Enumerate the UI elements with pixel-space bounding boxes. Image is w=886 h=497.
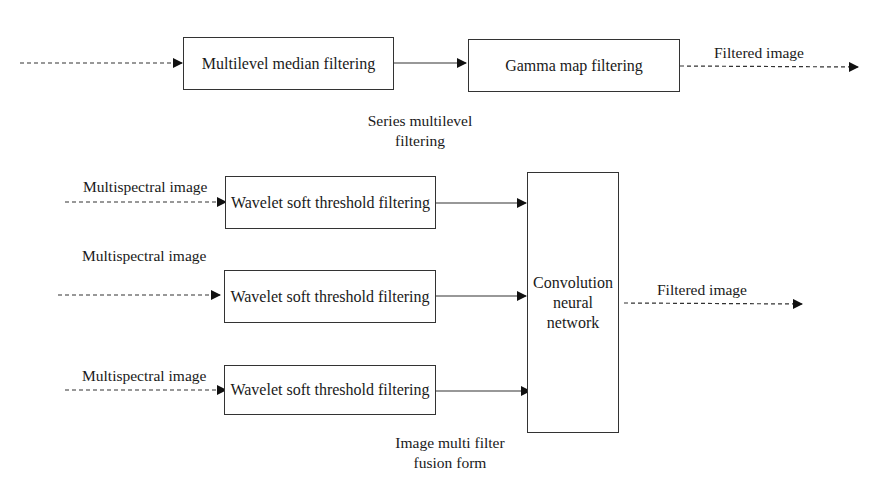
cnn-output-label: Filtered image <box>657 280 747 299</box>
wavelet-filter-box-3: Wavelet soft threshold filtering <box>224 365 436 415</box>
box-label: Wavelet soft threshold filtering <box>231 193 430 213</box>
top-output-label: Filtered image <box>714 43 804 62</box>
box-label: Wavelet soft threshold filtering <box>230 287 429 307</box>
box-label: Wavelet soft threshold filtering <box>230 380 429 400</box>
wavelet-filter-box-1: Wavelet soft threshold filtering <box>225 176 436 229</box>
gamma-map-filtering-box: Gamma map filtering <box>468 39 680 92</box>
arrow-gamma-to-output <box>680 66 858 67</box>
input-label-3: Multispectral image <box>82 366 206 385</box>
series-caption-line1: Series multilevel <box>360 111 480 131</box>
series-caption-line2: filtering <box>360 131 480 151</box>
fusion-caption-line2: fusion form <box>390 453 510 473</box>
cnn-label-line1: Convolution <box>533 273 613 293</box>
cnn-label-line2: neural <box>553 293 593 313</box>
fusion-caption: Image multi filter fusion form <box>390 433 510 473</box>
cnn-label-line3: network <box>547 313 599 333</box>
input-label-2: Multispectral image <box>82 246 206 265</box>
fusion-caption-line1: Image multi filter <box>390 433 510 453</box>
multilevel-median-filtering-box: Multilevel median filtering <box>183 37 394 90</box>
series-caption: Series multilevel filtering <box>360 111 480 151</box>
box-label: Gamma map filtering <box>505 56 643 76</box>
box-label: Multilevel median filtering <box>202 54 375 74</box>
arrow-cnn-to-output <box>624 303 802 304</box>
cnn-box: Convolution neural network <box>527 172 619 433</box>
input-label-1: Multispectral image <box>83 177 207 196</box>
wavelet-filter-box-2: Wavelet soft threshold filtering <box>224 270 436 323</box>
